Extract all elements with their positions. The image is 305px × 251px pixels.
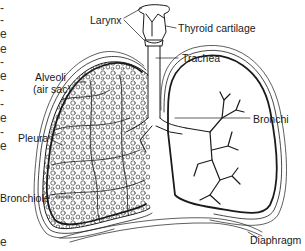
label-diaphragm: Diaphragm — [250, 234, 301, 246]
label-bronchi: Bronchi — [253, 113, 289, 125]
right-bronchial-tree — [186, 92, 244, 204]
right-lung — [161, 45, 287, 225]
label-pleura: Pleura — [18, 132, 48, 144]
label-alveoli: Alveoli — [35, 71, 66, 83]
larynx-shape — [139, 5, 170, 46]
label-trachea: Trachea — [182, 52, 220, 64]
lung-diagram — [0, 0, 305, 251]
trachea-shape — [148, 46, 160, 118]
label-air-sac: (air sac) — [33, 83, 71, 95]
label-thyroid-cartilage: Thyroid cartilage — [178, 22, 256, 34]
label-bronchiole: Bronchiole — [0, 192, 50, 204]
label-larynx: Larynx — [90, 14, 122, 26]
